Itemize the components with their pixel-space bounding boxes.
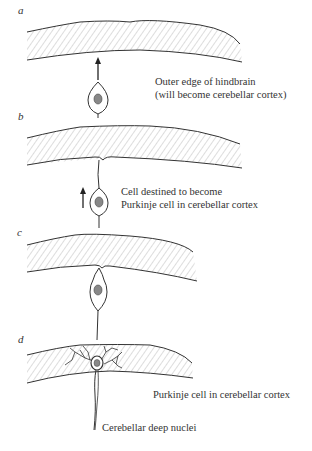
leading-process-b <box>98 160 99 188</box>
migrating-cell-b <box>90 188 108 228</box>
purkinje-migration-diagram <box>0 0 312 451</box>
panel-label-d: d <box>18 333 24 345</box>
hindbrain-layer-a <box>27 21 242 62</box>
panel-label-c: c <box>17 226 22 238</box>
purkinje-cell-label: Purkinje cell in cerebellar cortex <box>153 389 290 402</box>
destined-cell-label-line1: Cell destined to become <box>121 186 258 199</box>
migration-arrow-b <box>80 187 86 208</box>
outer-edge-label: Outer edge of hindbrain (will become cer… <box>155 76 286 101</box>
migrating-cell-a <box>88 82 108 118</box>
hindbrain-layer-b <box>27 126 242 168</box>
destined-cell-label: Cell destined to become Purkinje cell in… <box>121 186 258 211</box>
hindbrain-layer-d <box>27 345 193 384</box>
migrating-cell-c <box>90 268 107 340</box>
hindbrain-layer-c <box>27 234 197 281</box>
panel-label-b: b <box>18 110 24 122</box>
destined-cell-label-line2: Purkinje cell in cerebellar cortex <box>121 199 258 212</box>
outer-edge-label-line1: Outer edge of hindbrain <box>155 76 286 89</box>
panel-label-a: a <box>18 4 24 16</box>
deep-nuclei-label: Cerebellar deep nuclei <box>102 422 196 435</box>
migration-arrow-a <box>95 57 101 80</box>
outer-edge-label-line2: (will become cerebellar cortex) <box>155 89 286 102</box>
